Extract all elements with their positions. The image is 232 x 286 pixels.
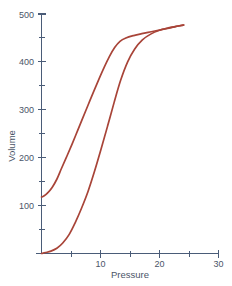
y-axis-title: Volume [6,130,17,162]
chart-canvas: 500 400 300 200 100 10 20 30 Pressure Vo… [0,0,232,286]
x-tick-label-10: 10 [95,259,105,269]
pv-loop-chart: 500 400 300 200 100 10 20 30 Pressure Vo… [0,0,232,286]
y-tick-label-300: 300 [19,105,34,115]
inflation-limb-curve [42,25,184,253]
y-tick-label-400: 400 [19,57,34,67]
y-tick-label-200: 200 [19,153,34,163]
y-tick-label-500: 500 [19,10,34,20]
x-tick-label-30: 30 [213,259,223,269]
y-tick-label-100: 100 [19,201,34,211]
x-tick-label-20: 20 [154,259,164,269]
x-axis-title: Pressure [111,269,149,280]
